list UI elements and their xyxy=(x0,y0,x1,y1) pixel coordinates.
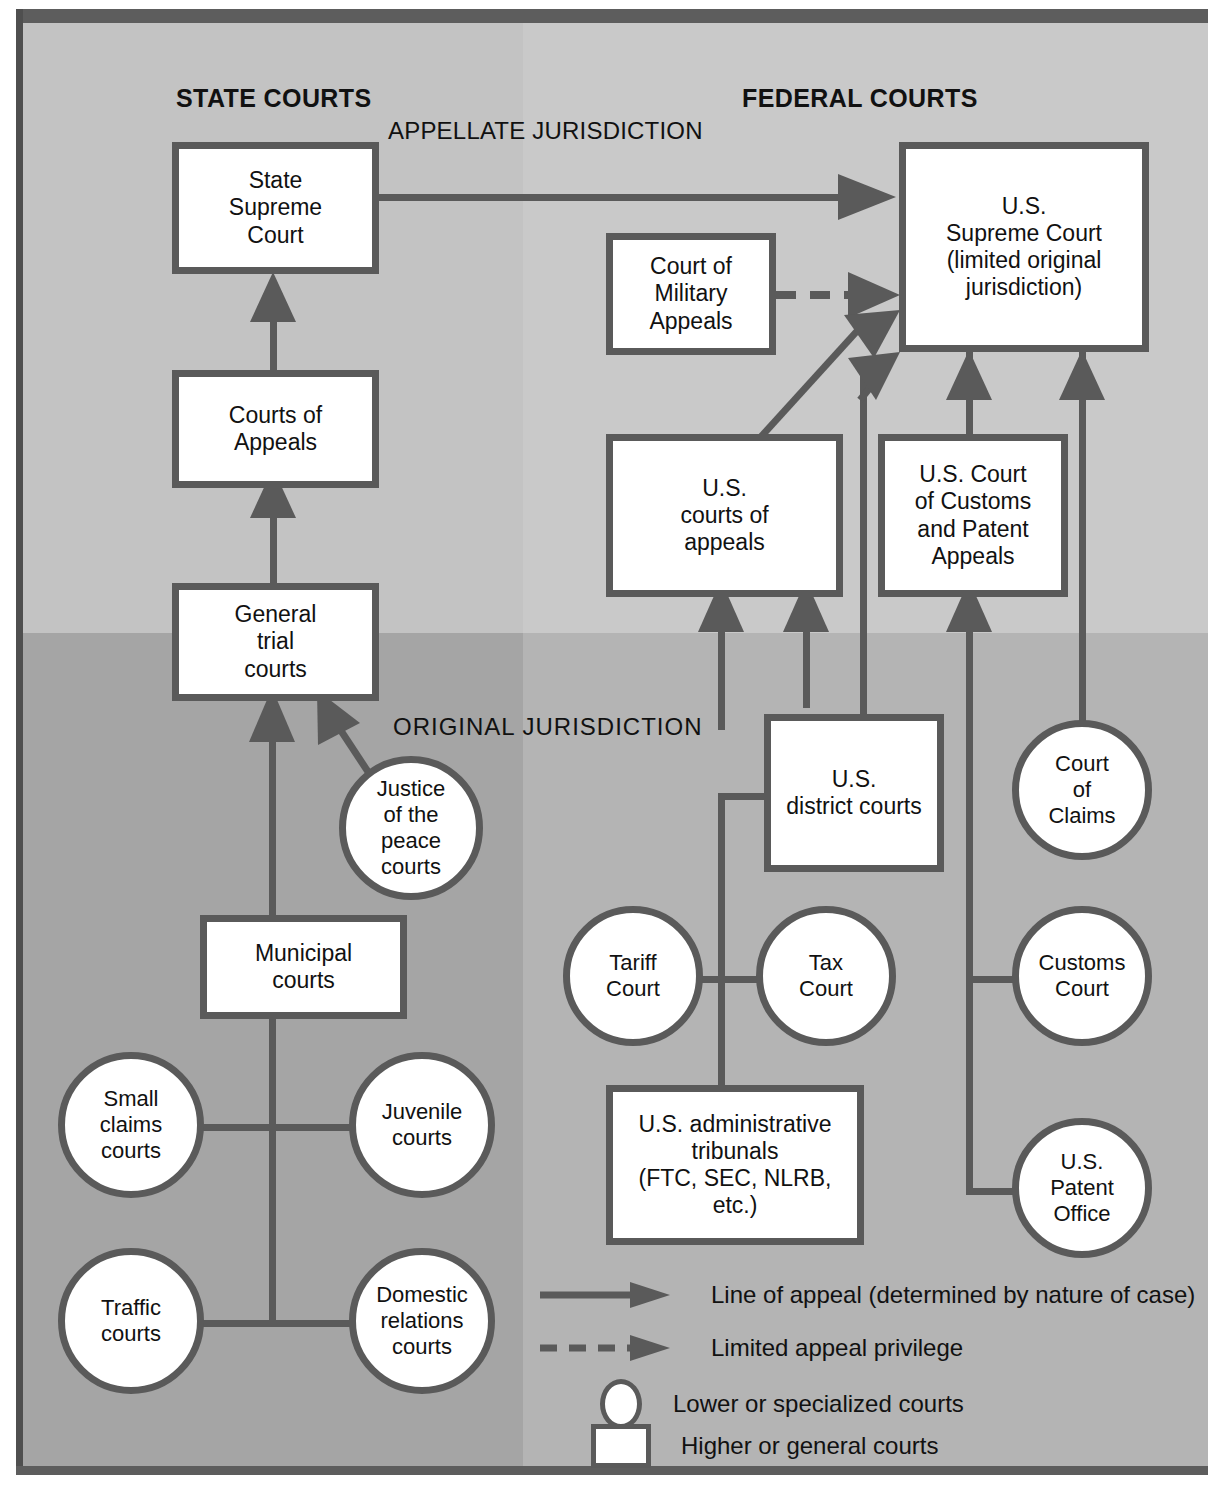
node-us-court-of-customs-and-patent-appeals[interactable]: U.S. Courtof Customsand PatentAppeals xyxy=(878,434,1068,597)
edge-trial-to-appeals xyxy=(270,487,277,583)
node-municipal-courts[interactable]: Municipalcourts xyxy=(200,915,407,1019)
node-us-courts-of-appeals[interactable]: U.S.courts ofappeals xyxy=(606,434,843,597)
spine-admin-to-district xyxy=(718,793,725,1093)
node-juvenile-courts[interactable]: Juvenilecourts xyxy=(349,1052,495,1198)
edge-district-left-stub xyxy=(718,793,770,800)
node-tariff-court[interactable]: TariffCourt xyxy=(563,906,703,1046)
node-label: U.S.courts ofappeals xyxy=(676,475,772,556)
frame-left-border xyxy=(16,9,23,1474)
node-label: Municipalcourts xyxy=(251,940,356,994)
node-label: U.S.PatentOffice xyxy=(1046,1149,1118,1227)
node-court-of-claims[interactable]: CourtofClaims xyxy=(1012,720,1152,860)
edge-district-to-us-supreme xyxy=(860,370,867,715)
node-label: TaxCourt xyxy=(795,950,857,1002)
solid-arrow-icon xyxy=(538,1281,673,1309)
node-label: U.S. Courtof Customsand PatentAppeals xyxy=(911,461,1035,570)
node-us-patent-office[interactable]: U.S.PatentOffice xyxy=(1012,1118,1152,1258)
edge-smallclaims-juvenile xyxy=(196,1124,356,1131)
legend-label: Lower or specialized courts xyxy=(673,1390,964,1418)
legend-row-lower-courts: Lower or specialized courts xyxy=(600,1379,964,1429)
dashed-arrow-icon xyxy=(538,1334,673,1362)
legend-row-limited-appeal: Limited appeal privilege xyxy=(538,1334,963,1362)
node-label: StateSupremeCourt xyxy=(225,167,326,248)
node-court-of-military-appeals[interactable]: Court ofMilitaryAppeals xyxy=(606,233,776,355)
edge-traffic-domestic xyxy=(196,1320,356,1327)
node-label: CourtofClaims xyxy=(1044,751,1119,829)
label-appellate-jurisdiction: APPELLATE JURISDICTION xyxy=(388,117,703,145)
node-label: TariffCourt xyxy=(602,950,664,1002)
header-state-courts: STATE COURTS xyxy=(176,84,372,113)
edge-customs-patent-to-us-supreme xyxy=(966,352,973,436)
node-label: CustomsCourt xyxy=(1035,950,1130,1002)
node-general-trial-courts[interactable]: Generaltrialcourts xyxy=(172,583,379,701)
node-us-administrative-tribunals[interactable]: U.S. administrativetribunals(FTC, SEC, N… xyxy=(606,1085,864,1245)
node-label: Trafficcourts xyxy=(97,1295,165,1347)
edge-state-supreme-to-us-supreme xyxy=(378,194,868,201)
edge-claims-to-us-supreme xyxy=(1079,352,1086,752)
court-system-diagram: STATE COURTS FEDERAL COURTS APPELLATE JU… xyxy=(0,0,1208,1492)
node-label: U.S. administrativetribunals(FTC, SEC, N… xyxy=(634,1111,835,1220)
spine-municipal-lower xyxy=(269,1013,276,1323)
edge-district-to-appeals-left xyxy=(718,600,725,730)
node-us-district-courts[interactable]: U.S.district courts xyxy=(764,714,944,872)
node-label: Justiceof thepeacecourts xyxy=(373,776,449,880)
node-label: Generaltrialcourts xyxy=(231,601,321,682)
node-small-claims-courts[interactable]: Smallclaimscourts xyxy=(58,1052,204,1198)
edge-customs-court-stub xyxy=(966,976,1018,983)
edge-municipal-to-trial xyxy=(269,700,276,922)
edge-district-to-appeals-right xyxy=(803,600,810,708)
edge-patent-office-stub xyxy=(966,1188,1018,1195)
legend-row-higher-courts: Higher or general courts xyxy=(591,1424,938,1468)
legend-label: Limited appeal privilege xyxy=(711,1334,963,1362)
node-traffic-courts[interactable]: Trafficcourts xyxy=(58,1248,204,1394)
node-label: U.S.Supreme Court(limited originaljurisd… xyxy=(942,193,1106,302)
frame-top-border xyxy=(16,9,1208,23)
legend-label: Line of appeal (determined by nature of … xyxy=(711,1281,1195,1309)
header-federal-courts: FEDERAL COURTS xyxy=(742,84,978,113)
spine-customs-patent-lower xyxy=(966,592,973,1194)
node-us-supreme-court[interactable]: U.S.Supreme Court(limited originaljurisd… xyxy=(899,142,1149,352)
node-label: Courts ofAppeals xyxy=(225,402,326,456)
node-customs-court[interactable]: CustomsCourt xyxy=(1012,906,1152,1046)
node-label: Juvenilecourts xyxy=(378,1099,467,1151)
edge-appeals-to-state-supreme xyxy=(270,290,277,370)
node-state-supreme-court[interactable]: StateSupremeCourt xyxy=(172,142,379,274)
node-label: Smallclaimscourts xyxy=(96,1086,166,1164)
node-tax-court[interactable]: TaxCourt xyxy=(756,906,896,1046)
node-justice-of-the-peace-courts[interactable]: Justiceof thepeacecourts xyxy=(339,756,483,900)
node-label: Court ofMilitaryAppeals xyxy=(645,253,736,334)
square-symbol-icon xyxy=(591,1424,651,1468)
node-label: U.S.district courts xyxy=(782,766,925,820)
label-original-jurisdiction: ORIGINAL JURISDICTION xyxy=(393,713,702,741)
node-label: Domesticrelationscourts xyxy=(372,1282,472,1360)
circle-symbol-icon xyxy=(600,1379,642,1429)
node-domestic-relations-courts[interactable]: Domesticrelationscourts xyxy=(349,1248,495,1394)
legend-label: Higher or general courts xyxy=(681,1432,938,1460)
node-courts-of-appeals[interactable]: Courts ofAppeals xyxy=(172,370,379,488)
legend-row-line-of-appeal: Line of appeal (determined by nature of … xyxy=(538,1281,1195,1309)
